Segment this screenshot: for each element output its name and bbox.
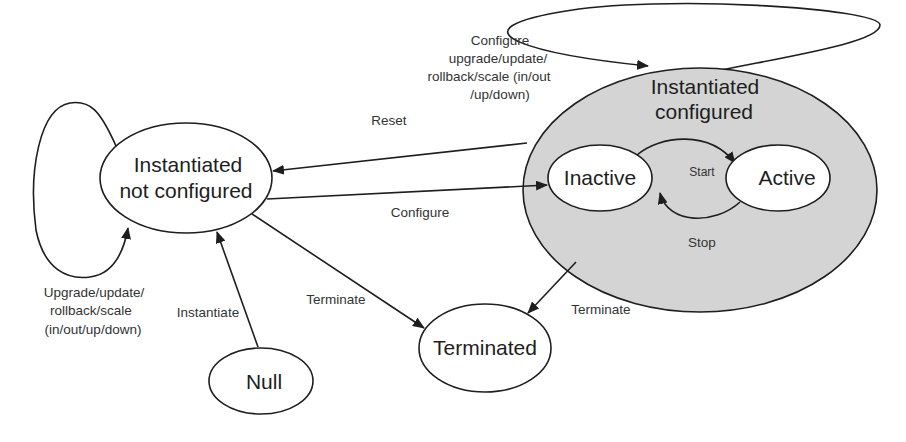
self-loop-not-configured-label-line3: (in/out/up/down) xyxy=(45,322,142,337)
inactive-label: Inactive xyxy=(564,166,636,189)
configured-label-line2: configured xyxy=(655,100,753,123)
active-label: Active xyxy=(758,166,815,189)
null-label: Null xyxy=(246,370,282,393)
terminate-from-not-configured-edge xyxy=(252,214,424,328)
not-configured-label-line2: not configured xyxy=(119,179,252,202)
start-label: Start xyxy=(689,165,715,179)
self-loop-not-configured-label-line1: Upgrade/update/ xyxy=(44,285,145,300)
configure-label: Configure xyxy=(391,205,450,220)
terminate-label-left: Terminate xyxy=(306,292,365,307)
configure-edge xyxy=(267,185,547,199)
self-loop-not-configured-label-line2: rollback/scale xyxy=(50,303,132,318)
self-loop-configured-label-line1: Configure xyxy=(471,33,530,48)
self-loop-configured-label-line3: rollback/scale (in/out xyxy=(427,69,550,84)
reset-edge xyxy=(273,143,527,171)
state-diagram: Instantiated not configured Instantiated… xyxy=(0,0,906,442)
state-instantiated-not-configured[interactable] xyxy=(100,123,272,233)
terminated-label: Terminated xyxy=(433,336,537,359)
instantiate-label: Instantiate xyxy=(177,305,239,320)
configured-label-line1: Instantiated xyxy=(651,75,760,98)
reset-label: Reset xyxy=(371,113,407,128)
stop-label: Stop xyxy=(688,235,716,250)
self-loop-configured-label-line2: upgrade/update/ xyxy=(449,51,548,66)
terminate-label-right: Terminate xyxy=(571,302,630,317)
terminate-from-configured-edge xyxy=(528,262,576,313)
not-configured-label-line1: Instantiated xyxy=(134,153,243,176)
instantiate-edge xyxy=(217,232,258,347)
self-loop-configured-label-line4: /up/down) xyxy=(470,87,529,102)
